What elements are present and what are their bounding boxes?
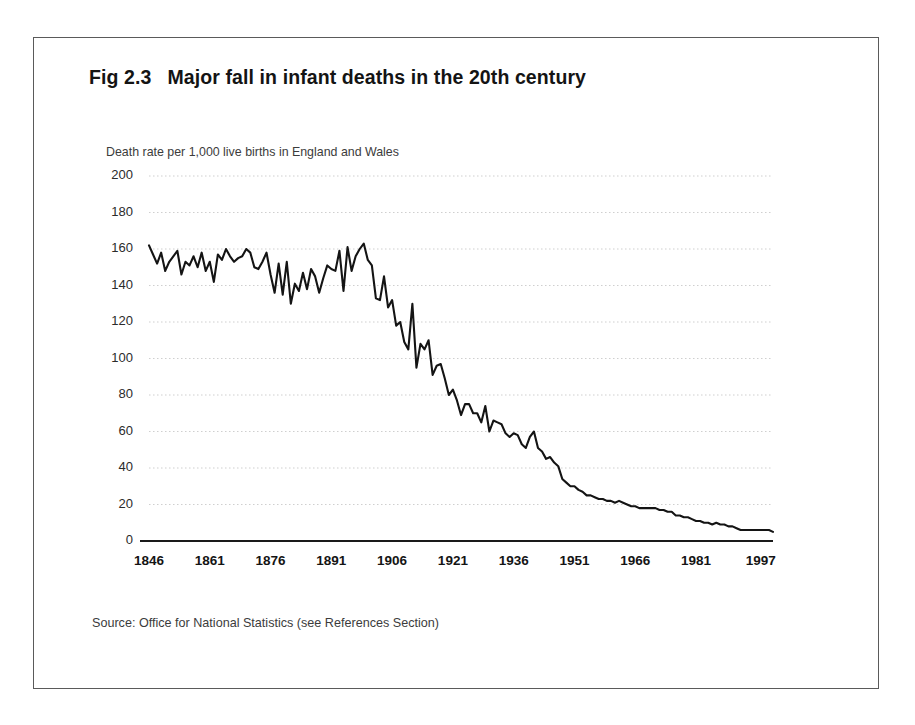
- y-axis-tick-label: 180: [93, 204, 133, 219]
- y-axis-tick-label: 100: [93, 350, 133, 365]
- plot-area: 020406080100120140160180200 184618611876…: [34, 38, 880, 690]
- x-axis-tick-label: 1891: [316, 553, 346, 568]
- line-chart-svg: [34, 38, 880, 690]
- figure-frame: Fig 2.3Major fall in infant deaths in th…: [33, 37, 879, 689]
- x-axis-tick-label: 1861: [195, 553, 225, 568]
- x-axis-tick-label: 1997: [746, 553, 776, 568]
- x-axis-tick-label: 1846: [134, 553, 164, 568]
- y-axis-tick-label: 200: [93, 167, 133, 182]
- x-axis-tick-label: 1981: [681, 553, 711, 568]
- x-axis-tick-label: 1966: [620, 553, 650, 568]
- x-axis-tick-label: 1921: [438, 553, 468, 568]
- y-axis-tick-label: 140: [93, 277, 133, 292]
- x-axis-tick-label: 1876: [256, 553, 286, 568]
- x-axis-tick-label: 1936: [499, 553, 529, 568]
- y-axis-tick-label: 20: [93, 496, 133, 511]
- data-series-line: [149, 244, 773, 532]
- gridlines-group: [149, 176, 773, 505]
- source-note: Source: Office for National Statistics (…: [92, 616, 439, 630]
- x-axis-tick-label: 1906: [377, 553, 407, 568]
- x-axis-tick-label: 1951: [559, 553, 589, 568]
- y-axis-tick-label: 120: [93, 313, 133, 328]
- figure-page: Fig 2.3Major fall in infant deaths in th…: [0, 0, 915, 725]
- y-axis-tick-label: 160: [93, 240, 133, 255]
- y-axis-tick-label: 40: [93, 459, 133, 474]
- y-axis-tick-label: 60: [93, 423, 133, 438]
- y-axis-tick-label: 0: [93, 532, 133, 547]
- y-axis-tick-label: 80: [93, 386, 133, 401]
